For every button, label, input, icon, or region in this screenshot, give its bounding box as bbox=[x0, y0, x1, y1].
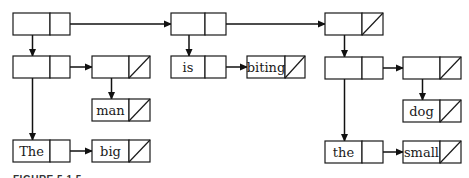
atom-label: big bbox=[100, 144, 121, 159]
atom-label: man bbox=[96, 103, 125, 118]
car-field bbox=[325, 57, 362, 79]
cdr-field bbox=[205, 13, 226, 35]
cons-cell-biting: biting bbox=[247, 56, 305, 78]
cons-cell-C bbox=[325, 13, 383, 35]
cdr-field bbox=[50, 13, 70, 35]
list-structure-diagram: isbitingmandogThebigthesmall FIGURE 5.1.… bbox=[0, 0, 469, 178]
cons-cell-small: small bbox=[403, 141, 461, 163]
cons-cell-The: The bbox=[13, 140, 70, 162]
atom-label: the bbox=[333, 145, 355, 160]
cons-cell-E bbox=[92, 56, 150, 78]
cdr-field bbox=[362, 57, 383, 79]
nodes-layer: isbitingmandogThebigthesmall bbox=[13, 13, 461, 163]
car-field bbox=[13, 56, 50, 78]
cdr-field bbox=[50, 56, 70, 78]
atom-label: small bbox=[404, 145, 439, 160]
cons-cell-D bbox=[13, 56, 70, 78]
cdr-field bbox=[50, 140, 70, 162]
atom-label: is bbox=[183, 60, 194, 75]
cons-cell-man: man bbox=[92, 99, 150, 121]
car-field bbox=[403, 57, 440, 79]
cons-cell-G bbox=[403, 57, 461, 79]
car-field bbox=[325, 13, 362, 35]
figure-caption: FIGURE 5.1.5 bbox=[13, 174, 82, 178]
cons-cell-big: big bbox=[92, 140, 150, 162]
car-field bbox=[92, 56, 129, 78]
cons-cell-A bbox=[13, 13, 70, 35]
atom-label: dog bbox=[409, 104, 433, 119]
atom-label: biting bbox=[247, 60, 286, 75]
cons-cell-the: the bbox=[325, 141, 383, 163]
cons-cell-is: is bbox=[171, 56, 226, 78]
cons-cell-dog: dog bbox=[403, 100, 461, 122]
cdr-field bbox=[205, 56, 226, 78]
car-field bbox=[171, 13, 205, 35]
edges-layer bbox=[33, 24, 423, 152]
cons-cell-F bbox=[325, 57, 383, 79]
atom-label: The bbox=[19, 144, 44, 159]
car-field bbox=[13, 13, 50, 35]
cdr-field bbox=[362, 141, 383, 163]
cons-cell-B bbox=[171, 13, 226, 35]
